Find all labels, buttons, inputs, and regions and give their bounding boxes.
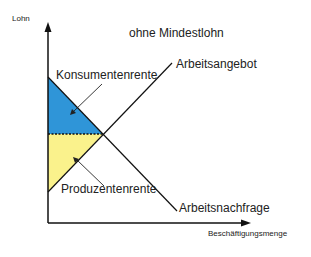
supply-curve-label: Arbeitsangebot <box>176 58 257 70</box>
diagram-title: ohne Mindestlohn <box>129 27 224 39</box>
consumer-surplus-pointer <box>73 84 102 112</box>
demand-curve-label: Arbeitsnachfrage <box>179 202 270 214</box>
y-axis-arrow-icon <box>45 22 52 32</box>
y-axis-label: Lohn <box>12 15 30 23</box>
consumer-surplus-label: Konsumentenrente <box>56 69 157 81</box>
x-axis-arrow-icon <box>241 220 251 227</box>
x-axis-label: Beschäftigungsmenge <box>208 230 287 238</box>
producer-surplus-label: Produzentenrente <box>61 183 156 195</box>
